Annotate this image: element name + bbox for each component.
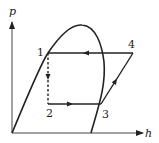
p-h-diagram: p h 1 2 3 4 [0,0,159,143]
point-4-label: 4 [128,38,135,51]
point-1-label: 1 [37,46,44,59]
arrow-left-icon [83,51,89,56]
arrow-right-icon [67,102,73,107]
saturation-dome [12,25,104,133]
cycle [46,51,134,107]
point-labels: 1 2 3 4 [37,38,135,121]
point-3-label: 3 [102,108,109,121]
x-axis-label: h [145,127,152,140]
y-axis-label: p [9,5,16,18]
arrow-down-icon [46,74,51,80]
point-2-label: 2 [46,107,53,120]
